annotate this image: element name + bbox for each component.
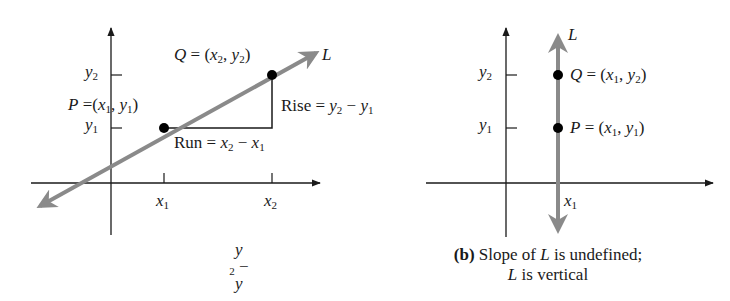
point-q-b <box>553 70 563 80</box>
slope-fraction: y2 − y1 x2 − x1 <box>227 241 250 301</box>
point-p <box>159 123 169 133</box>
point-p-b <box>553 123 563 133</box>
line-l-label-b: L <box>568 26 577 43</box>
point-p-label: P =(x1, y1) <box>68 96 138 113</box>
y2-label-b: y2 <box>479 63 492 80</box>
x2-label: x2 <box>264 192 277 209</box>
point-q-label: Q = (x2, y2) <box>174 46 250 63</box>
point-p-label-b: P = (x1, y1) <box>570 119 644 136</box>
rise-label: Rise = y2 − y1 <box>281 97 374 114</box>
x1-label: x1 <box>156 192 169 209</box>
point-q <box>267 70 277 80</box>
line-l-label: L <box>322 46 331 63</box>
x1-label-b: x1 <box>564 192 577 209</box>
run-label: Run = x2 − x1 <box>174 134 265 151</box>
caption-b: (b) Slope of L is undefined; L is vertic… <box>443 245 653 285</box>
point-q-label-b: Q = (x1, y2) <box>570 66 646 83</box>
y1-label-b: y1 <box>479 116 492 133</box>
y2-label: y2 <box>85 63 98 80</box>
y1-label: y1 <box>85 116 98 133</box>
rise-run-triangle <box>164 75 272 128</box>
caption-a: (a) Slope of L is m = y2 − y1 x2 − x1 <box>82 241 251 301</box>
